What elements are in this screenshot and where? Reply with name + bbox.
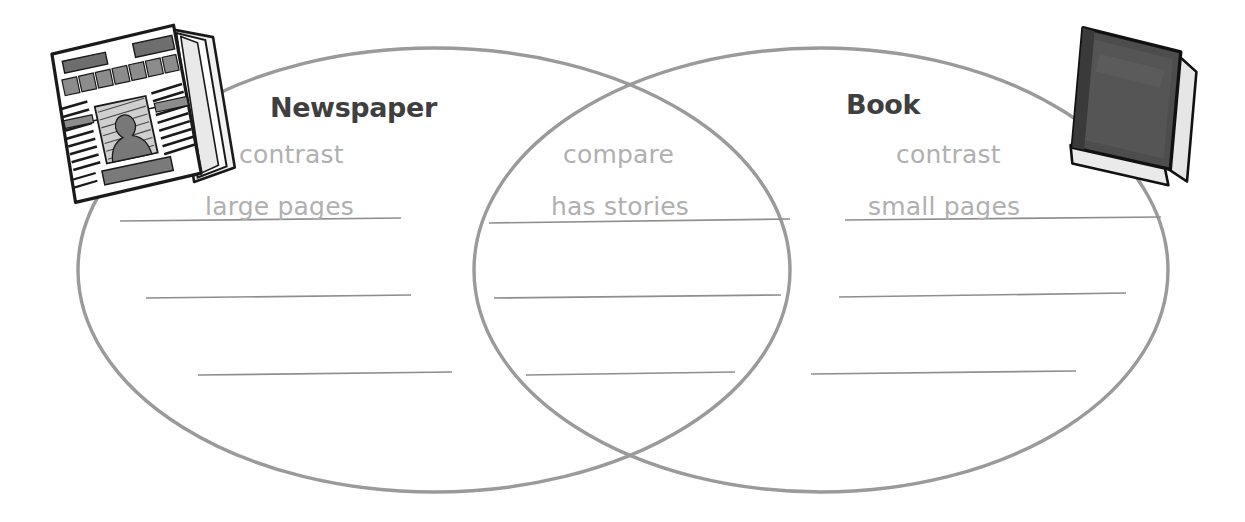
book-icon	[1065, 28, 1204, 188]
center-write-line-3[interactable]	[526, 372, 735, 375]
venn-diagram-canvas	[0, 0, 1245, 522]
right-write-line-1[interactable]	[845, 217, 1161, 220]
right-write-line-3[interactable]	[811, 371, 1076, 374]
left-write-line-2[interactable]	[146, 295, 411, 298]
left-write-line-3[interactable]	[198, 372, 452, 375]
center-write-line-2[interactable]	[494, 295, 781, 298]
venn-diagram-worksheet: Newspaper Book contrast large pages comp…	[0, 0, 1245, 522]
center-write-line-1[interactable]	[489, 219, 790, 223]
right-write-line-2[interactable]	[839, 293, 1126, 297]
right-circle-outline[interactable]	[474, 48, 1168, 492]
left-write-line-1[interactable]	[120, 218, 401, 221]
newspaper-icon	[50, 20, 236, 203]
